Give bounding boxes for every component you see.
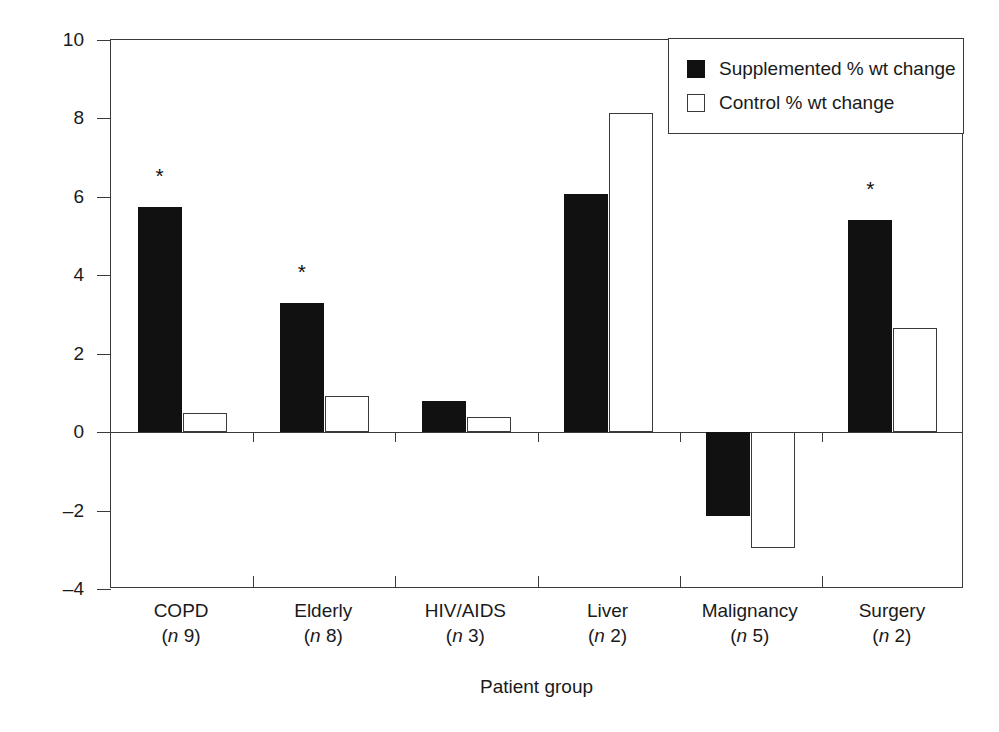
significance-star-surgery: * [866, 178, 874, 199]
group-name: Elderly [294, 600, 352, 621]
y-axis-tick-label: 8 [24, 108, 84, 127]
x-axis-group-tick [680, 432, 681, 442]
chart-figure: Weight change (%) 1086420–2–4 *** COPD(n… [0, 0, 999, 732]
group-label-copd: COPD(n 9) [154, 598, 209, 648]
bar-control-surgery [893, 328, 937, 432]
legend-item-control: Control % wt change [687, 86, 963, 120]
group-sample-size: (n 2) [859, 623, 926, 648]
y-axis-tick [97, 432, 111, 433]
y-axis-tick-label: 0 [24, 422, 84, 441]
y-axis-tick [97, 118, 111, 119]
x-axis-tick [822, 576, 823, 587]
x-axis-group-labels: COPD(n 9)Elderly(n 8)HIV/AIDS(n 3)Liver(… [110, 598, 963, 668]
y-axis-tick-label: 2 [24, 343, 84, 362]
group-name: Malignancy [702, 600, 798, 621]
bar-control-malignancy [751, 432, 795, 548]
y-axis-tick [97, 40, 111, 41]
significance-star-elderly: * [298, 261, 306, 282]
bar-supplemented-elderly [280, 303, 324, 432]
legend-item-supplemented: Supplemented % wt change [687, 52, 963, 86]
y-axis-tick [97, 589, 111, 590]
y-axis-tick-label: 10 [24, 30, 84, 49]
bar-control-copd [183, 413, 227, 433]
y-axis-tick [97, 275, 111, 276]
group-name: HIV/AIDS [425, 600, 506, 621]
y-axis-tick-label: –2 [24, 500, 84, 519]
x-axis-group-tick [538, 432, 539, 442]
bar-supplemented-hiv-aids [422, 401, 466, 432]
legend-label: Supplemented % wt change [719, 58, 956, 80]
x-axis-group-tick [395, 432, 396, 442]
x-axis-tick [538, 576, 539, 587]
y-axis-tick-label: 6 [24, 186, 84, 205]
y-axis-tick [97, 511, 111, 512]
y-axis-tick-label: –4 [24, 579, 84, 598]
x-axis-tick [395, 576, 396, 587]
bar-supplemented-surgery [848, 220, 892, 432]
y-axis-tick [97, 197, 111, 198]
bar-supplemented-liver [564, 194, 608, 432]
filled-square-icon [687, 60, 705, 78]
chart-legend: Supplemented % wt changeControl % wt cha… [668, 38, 964, 134]
bar-control-elderly [325, 396, 369, 432]
group-name: Liver [587, 600, 628, 621]
group-sample-size: (n 8) [294, 623, 352, 648]
group-label-surgery: Surgery(n 2) [859, 598, 926, 648]
x-axis-tick [253, 576, 254, 587]
y-axis-tick [97, 354, 111, 355]
y-axis-tick-label: 4 [24, 265, 84, 284]
group-sample-size: (n 9) [154, 623, 209, 648]
group-name: COPD [154, 600, 209, 621]
hollow-square-icon [687, 94, 705, 112]
x-axis-group-tick [822, 432, 823, 442]
group-name: Surgery [859, 600, 926, 621]
group-label-elderly: Elderly(n 8) [294, 598, 352, 648]
bar-supplemented-copd [138, 207, 182, 432]
group-sample-size: (n 2) [587, 623, 628, 648]
group-sample-size: (n 5) [702, 623, 798, 648]
significance-star-copd: * [155, 165, 163, 186]
legend-label: Control % wt change [719, 92, 894, 114]
group-sample-size: (n 3) [425, 623, 506, 648]
bar-supplemented-malignancy [706, 432, 750, 516]
x-axis-tick [680, 576, 681, 587]
y-axis-tick-labels: 1086420–2–4 [24, 39, 84, 588]
group-label-liver: Liver(n 2) [587, 598, 628, 648]
x-axis-group-tick [253, 432, 254, 442]
bar-control-liver [609, 113, 653, 433]
x-axis-title: Patient group [110, 676, 963, 698]
group-label-malignancy: Malignancy(n 5) [702, 598, 798, 648]
bar-control-hiv-aids [467, 417, 511, 432]
group-label-hiv-aids: HIV/AIDS(n 3) [425, 598, 506, 648]
zero-baseline [111, 432, 962, 433]
